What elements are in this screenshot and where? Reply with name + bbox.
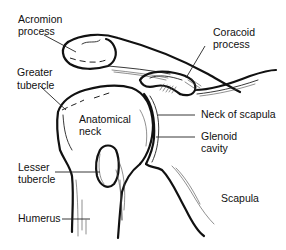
humerus-shape xyxy=(57,86,153,238)
leader-acromion xyxy=(44,35,76,52)
label-scapula: Scapula xyxy=(221,192,259,204)
label-neck-of-scapula: Neck of scapula xyxy=(201,108,276,120)
label-humerus: Humerus xyxy=(18,212,61,224)
shoulder-diagram: Acromion process Coracoid process Greate… xyxy=(0,0,286,250)
label-anatomical-neck: Anatomical neck xyxy=(79,113,134,137)
leader-coracoid xyxy=(186,46,205,78)
label-glenoid-cavity: Glenoid cavity xyxy=(201,130,240,154)
label-lesser-tubercle: Lesser tubercle xyxy=(18,161,56,185)
labels: Acromion process Coracoid process Greate… xyxy=(17,13,276,224)
label-coracoid-process: Coracoid process xyxy=(213,26,258,50)
label-greater-tubercle: Greater tubercle xyxy=(17,66,56,91)
label-acromion-process: Acromion process xyxy=(18,13,65,37)
